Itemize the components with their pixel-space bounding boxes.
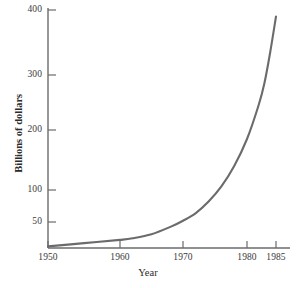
- x-axis-title: Year: [0, 268, 296, 279]
- x-tick-label-1985: 1985: [266, 253, 285, 263]
- x-tick-label-1960: 1960: [110, 253, 129, 263]
- y-tick-marks: [48, 10, 56, 222]
- y-tick-label-50: 50: [4, 217, 42, 227]
- x-tick-label-1970: 1970: [173, 253, 192, 263]
- y-tick-label-400: 400: [4, 5, 42, 15]
- chart-figure: 400 300 200 100 50 1950 1960 1970 1980 1…: [0, 0, 296, 288]
- y-axis-title: Billions of dollars: [14, 68, 25, 198]
- data-series-line: [48, 17, 276, 247]
- x-tick-label-1980: 1980: [237, 253, 256, 263]
- x-tick-marks: [48, 241, 276, 248]
- x-tick-label-1950: 1950: [38, 253, 57, 263]
- plot-area: [0, 0, 296, 288]
